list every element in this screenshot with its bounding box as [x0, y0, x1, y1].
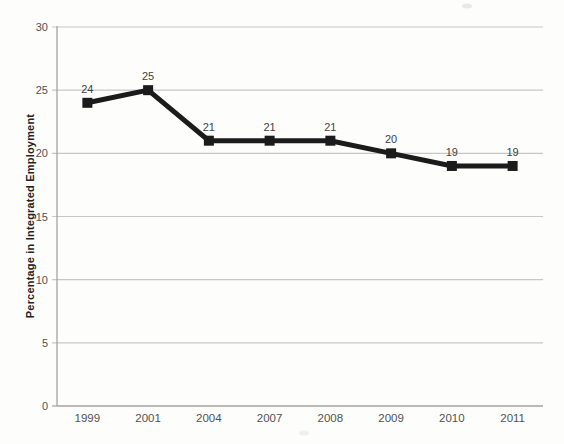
data-point-label: 21	[324, 121, 336, 133]
y-axis-title: Percentage in Integrated Employment	[24, 114, 36, 319]
y-tick-label: 30	[36, 21, 48, 33]
data-point-marker	[143, 85, 153, 95]
x-tick-label: 2009	[378, 412, 404, 424]
x-tick-label: 2008	[318, 412, 344, 424]
x-tick-label: 2004	[196, 412, 222, 424]
x-tick-label: 1999	[75, 412, 101, 424]
data-point-label: 19	[446, 146, 458, 158]
data-point-label: 19	[507, 146, 519, 158]
scan-artifact	[299, 431, 309, 436]
data-point-label: 20	[385, 133, 397, 145]
data-point-label: 25	[142, 70, 154, 82]
data-point-marker	[325, 136, 335, 146]
data-point-marker	[204, 136, 214, 146]
data-point-marker	[82, 98, 92, 108]
data-point-label: 24	[81, 83, 93, 95]
data-point-marker	[508, 161, 518, 171]
y-tick-label: 20	[36, 147, 48, 159]
y-tick-label: 10	[36, 274, 48, 286]
x-tick-label: 2011	[500, 412, 525, 424]
y-tick-label: 25	[36, 84, 48, 96]
data-point-label: 21	[203, 121, 215, 133]
x-tick-label: 2007	[257, 412, 283, 424]
integrated-employment-line-chart: 0510152025301999200120042007200820092010…	[0, 0, 564, 444]
data-point-marker	[447, 161, 457, 171]
x-tick-label: 2010	[439, 412, 465, 424]
x-tick-label: 2001	[135, 412, 161, 424]
y-tick-label: 5	[42, 337, 48, 349]
y-tick-label: 0	[42, 400, 48, 412]
scan-artifact	[462, 4, 472, 9]
y-tick-label: 15	[36, 211, 48, 223]
data-point-marker	[386, 148, 396, 158]
data-point-label: 21	[264, 121, 276, 133]
data-point-marker	[265, 136, 275, 146]
chart-page: 0510152025301999200120042007200820092010…	[0, 0, 564, 444]
